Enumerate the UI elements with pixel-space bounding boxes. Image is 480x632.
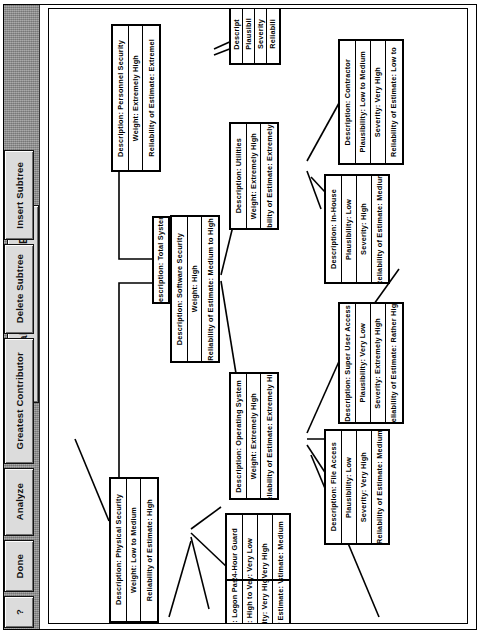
tree-canvas[interactable]: Descript Plausibil Severity Reliabili De… (49, 9, 467, 623)
node-field: Description: In-House (326, 176, 342, 282)
node-personnel-security[interactable]: Description: Personnel Security Weight: … (111, 24, 161, 172)
node-field: Weight: High (188, 217, 203, 361)
node-field-text: Weight: Extremely High (250, 393, 257, 479)
insert-subtree-button[interactable]: Insert Subtree (4, 150, 34, 240)
node-field: Reliability of Estimate: Medium (372, 176, 388, 282)
node-field-text: Descript (233, 19, 240, 50)
node-field-text: Description: Super User Access (344, 305, 351, 422)
node-field-text: Plausibil (245, 18, 252, 50)
node-field-text: Weight: Low to Medium (130, 507, 137, 593)
node-field: Severity: Extremely High (371, 304, 386, 422)
node-field-text: Severity: Very High (360, 452, 367, 522)
greatest-contributor-button-label: Greatest Contributor (14, 352, 25, 449)
node-field-text: Description: Personnel Security (117, 40, 124, 157)
node-field: Reliability of Estimate: Extremely High (261, 124, 277, 228)
node-field: Reliability of Estimate: Extremely High (261, 374, 277, 498)
node-field-text: Description: Software Security (176, 233, 183, 345)
node-field-text: Reliability of Estimate: Extremely High (266, 124, 273, 228)
node-field-text: Reliability of Estimate: Low to (390, 47, 397, 157)
help-button-label: ? (14, 609, 25, 615)
node-field-text: Reliability of Estimate: Extremel (148, 39, 155, 157)
node-field: Description: Personnel Security (113, 26, 129, 170)
node-field-text: Severity: Extremely High (374, 318, 381, 409)
node-physical-security[interactable]: Description: Physical Security Weight: L… (109, 477, 159, 623)
node-field: Description: Super User Access (340, 304, 356, 422)
node-field-text: Plausibility: Low to Medium (359, 51, 366, 152)
node-field-text: Severity: High (360, 203, 367, 255)
node-field: Plausibility: Very Low (356, 304, 371, 422)
node-software-security[interactable]: Description: Software Security Weight: H… (170, 215, 220, 363)
application-window: FRA Analysis of "EXAMPLE!" ? Done Analyz… (0, 0, 480, 632)
done-button[interactable]: Done (4, 540, 34, 592)
node-field: Reliability of Estimate: Very Low (273, 581, 289, 623)
node-field: Plausibility: High to Very High (243, 581, 258, 623)
node-field: Description: Physical Security (111, 479, 127, 621)
node-field-text: Severity (257, 19, 264, 49)
node-field: Weight: Extremely High (247, 374, 262, 498)
node-field-text: Plausibility: Low (345, 457, 352, 518)
node-field-text: Description: In-House (330, 189, 337, 269)
node-operating-system[interactable]: Description: Operating System Weight: Ex… (229, 372, 279, 500)
node-logon-passwords[interactable]: Description: Logon Passwords Plausibilit… (225, 579, 291, 623)
node-field: Description: File Access (326, 431, 342, 543)
analyze-button-label: Analyze (14, 483, 25, 520)
node-field-text: Reliabili (269, 19, 276, 49)
node-field: Severity: Very High (258, 581, 273, 623)
node-field: Reliability of Estimate: High (141, 479, 157, 621)
node-field: Reliability of Estimate: Rather High (386, 304, 402, 422)
node-field-text: Plausibility: Very Low (359, 323, 366, 402)
node-field-text: Weight: Extremely High (250, 133, 257, 219)
node-field: Description: Utilities (231, 124, 247, 228)
greatest-contributor-button[interactable]: Greatest Contributor (4, 338, 34, 464)
node-field: Reliability of Estimate: Extremel (143, 26, 159, 170)
node-field: Description: Logon Passwords (227, 581, 243, 623)
node-field-text: Plausibility: High to Very High (246, 581, 253, 623)
delete-subtree-button-label: Delete Subtree (14, 254, 25, 323)
node-field-text: Reliability of Estimate: Medium to High (207, 218, 214, 361)
node-super-user-access[interactable]: Description: Super User Access Plausibil… (338, 302, 404, 424)
node-field-text: Reliability of Estimate: Medium (376, 431, 383, 543)
node-utilities[interactable]: Description: Utilities Weight: Extremely… (229, 122, 279, 230)
analyze-button[interactable]: Analyze (4, 468, 34, 536)
node-field: Plausibil (243, 9, 255, 63)
node-field: Description: Total System (154, 218, 168, 302)
node-in-house[interactable]: Description: In-House Plausibility: Low … (324, 174, 390, 284)
node-total-system[interactable]: Description: Total System (152, 216, 170, 304)
node-field: Descript (231, 9, 243, 63)
node-field: Description: Operating System (231, 374, 247, 498)
node-field: Weight: Extremely High (247, 124, 262, 228)
node-contractor[interactable]: Description: Contractor Plausibility: Lo… (338, 39, 404, 165)
node-field: Reliability of Estimate: Medium to High (202, 217, 218, 361)
node-field: Severity: High (357, 176, 372, 282)
node-field: Description: Software Security (172, 217, 188, 361)
node-field-text: Weight: High (191, 265, 198, 312)
node-file-access[interactable]: Description: File Access Plausibility: L… (324, 429, 390, 545)
node-field-text: Weight: Extremely High (132, 55, 139, 141)
node-field-text: Description: Physical Security (115, 494, 122, 605)
node-field: Weight: Extremely High (129, 26, 144, 170)
node-clipped-top[interactable]: Descript Plausibil Severity Reliabili (229, 9, 281, 65)
node-field-text: Description: Logon Passwords (231, 581, 238, 623)
node-field: Severity: Very High (357, 431, 372, 543)
node-field-text: Description: Utilities (235, 138, 242, 213)
node-field-text: Severity: Very High (261, 581, 268, 623)
node-field: Plausibility: Low (342, 176, 357, 282)
insert-subtree-button-label: Insert Subtree (14, 162, 25, 229)
node-field-text: Reliability of Estimate: High (146, 499, 153, 601)
node-field: Description: Contractor (340, 41, 356, 163)
delete-subtree-button[interactable]: Delete Subtree (4, 244, 34, 334)
node-field: Plausibility: Low (342, 431, 357, 543)
node-field-text: Reliability of Estimate: Very Low (277, 581, 284, 623)
node-field-text: Reliability of Estimate: Extremely High (266, 374, 273, 498)
node-field: Weight: Low to Medium (127, 479, 142, 621)
node-field-text: Description: Total System (157, 218, 164, 302)
node-field-text: Description: File Access (330, 442, 337, 531)
node-field-text: Reliability of Estimate: Medium (376, 176, 383, 282)
node-field: Plausibility: Low to Medium (356, 41, 371, 163)
node-field-text: Reliability of Estimate: Rather High (390, 304, 397, 422)
help-button[interactable]: ? (4, 596, 34, 628)
node-field-text: Plausibility: Low (345, 199, 352, 260)
node-field: Severity: Very High (371, 41, 386, 163)
node-field: Severity (255, 9, 267, 63)
node-field-text: Severity: Very High (374, 67, 381, 137)
